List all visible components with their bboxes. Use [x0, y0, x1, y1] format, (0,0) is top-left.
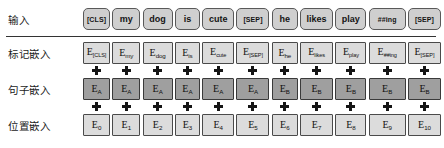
- embedding-symbol: E10: [418, 120, 431, 131]
- plus-slot: [112, 66, 140, 75]
- input-token[interactable]: he: [272, 8, 298, 30]
- segment-embedding-row: 句子嵌入 EAEAEAEAEAEAEBEBEBEBEB: [0, 78, 444, 100]
- input-token[interactable]: [CLS]: [83, 8, 110, 30]
- embedding-subscript: 5: [254, 123, 257, 130]
- embedding-subscript: likes: [314, 52, 325, 58]
- embedding-subscript: [SEP]: [249, 52, 263, 58]
- segment-embedding-cell[interactable]: EA: [112, 78, 140, 100]
- token-embedding-cell[interactable]: Eplay: [335, 42, 366, 64]
- plus-slot: [335, 102, 366, 111]
- plus-icon: [248, 66, 257, 75]
- position-embedding-cell[interactable]: E2: [143, 114, 173, 136]
- row-label-input: 输入: [8, 12, 80, 27]
- embedding-symbol: E3: [183, 120, 192, 131]
- plus-icon: [183, 102, 192, 111]
- segment-embedding-cell[interactable]: EA: [83, 78, 110, 100]
- embedding-symbol: EA: [121, 84, 131, 95]
- embedding-subscript: dog: [156, 51, 166, 58]
- token-embedding-cell[interactable]: E[SEP]: [236, 42, 269, 64]
- embedding-subscript: A: [98, 87, 102, 94]
- embedding-symbol: E9: [382, 120, 391, 131]
- position-embedding-cell[interactable]: E1: [112, 114, 140, 136]
- input-row: 输入 [CLS]mydogiscute[SEP]helikesplay##ing…: [0, 8, 444, 30]
- embedding-subscript: B: [388, 87, 392, 94]
- segment-embedding-cell[interactable]: EA: [202, 78, 234, 100]
- token-embedding-cell[interactable]: Eis: [175, 42, 200, 64]
- position-embedding-list: E0E1E2E3E4E5E6E7E8E9E10: [83, 114, 441, 136]
- embedding-symbol: E0: [92, 120, 101, 131]
- segment-embedding-cell[interactable]: EA: [236, 78, 269, 100]
- embedding-subscript: B: [318, 87, 322, 94]
- position-embedding-cell[interactable]: E8: [335, 114, 366, 136]
- position-embedding-cell[interactable]: E5: [236, 114, 269, 136]
- plus-icon: [346, 66, 355, 75]
- embedding-symbol: E[CLS]: [87, 47, 107, 58]
- embedding-symbol: E##ing: [378, 47, 397, 58]
- plus-slot: [236, 66, 269, 75]
- plus-slot: [236, 102, 269, 111]
- input-token[interactable]: [SEP]: [408, 8, 441, 30]
- segment-embedding-cell[interactable]: EB: [300, 78, 333, 100]
- token-embedding-cell[interactable]: Ehe: [272, 42, 298, 64]
- embedding-subscript: 7: [318, 123, 321, 130]
- plus-slot: [175, 102, 200, 111]
- plus-slot: [408, 102, 441, 111]
- plus-slot: [202, 102, 234, 111]
- position-embedding-cell[interactable]: E0: [83, 114, 110, 136]
- input-token[interactable]: likes: [300, 8, 333, 30]
- input-token[interactable]: dog: [143, 8, 173, 30]
- input-token[interactable]: [SEP]: [236, 8, 269, 30]
- segment-embedding-cell[interactable]: EB: [408, 78, 441, 100]
- token-embedding-cell[interactable]: Edog: [143, 42, 173, 64]
- plus-slot: [369, 66, 406, 75]
- embedding-symbol: EB: [346, 84, 356, 95]
- embedding-symbol: E2: [153, 120, 162, 131]
- plus-icon: [92, 102, 101, 111]
- position-embedding-cell[interactable]: E9: [369, 114, 406, 136]
- plus-slot: [408, 66, 441, 75]
- embedding-subscript: 6: [286, 123, 289, 130]
- token-embedding-cell[interactable]: E##ing: [369, 42, 406, 64]
- embedding-subscript: 1: [128, 123, 131, 130]
- input-separator-line: [6, 36, 436, 37]
- token-embedding-row: 标记嵌入 E[CLS]EmyEdogEisEcuteE[SEP]EheElike…: [0, 42, 444, 64]
- embedding-symbol: Ecute: [210, 47, 226, 58]
- position-embedding-cell[interactable]: E10: [408, 114, 441, 136]
- embedding-subscript: [CLS]: [93, 52, 107, 58]
- position-embedding-row: 位置嵌入 E0E1E2E3E4E5E6E7E8E9E10: [0, 114, 444, 136]
- embedding-subscript: cute: [216, 52, 226, 58]
- position-embedding-cell[interactable]: E4: [202, 114, 234, 136]
- embedding-symbol: E1: [122, 120, 131, 131]
- position-embedding-cell[interactable]: E3: [175, 114, 200, 136]
- segment-embedding-cell[interactable]: EB: [272, 78, 298, 100]
- segment-embedding-cell[interactable]: EB: [369, 78, 406, 100]
- plus-icon: [122, 102, 131, 111]
- segment-embedding-cell[interactable]: EA: [143, 78, 173, 100]
- row-label-segment-embeddings: 句子嵌入: [8, 82, 80, 97]
- segment-embedding-cell[interactable]: EA: [175, 78, 200, 100]
- embedding-subscript: he: [284, 51, 291, 58]
- plus-slot: [272, 66, 298, 75]
- input-token[interactable]: ##ing: [369, 8, 406, 30]
- embedding-symbol: Edog: [150, 48, 166, 59]
- token-embedding-cell[interactable]: Ecute: [202, 42, 234, 64]
- position-embedding-cell[interactable]: E7: [300, 114, 333, 136]
- input-token[interactable]: is: [175, 8, 200, 30]
- embedding-symbol: EA: [91, 84, 101, 95]
- embedding-symbol: E6: [280, 120, 289, 131]
- plus-slot: [143, 102, 173, 111]
- input-token[interactable]: my: [112, 8, 140, 30]
- embedding-subscript: is: [188, 51, 192, 58]
- input-token[interactable]: cute: [202, 8, 234, 30]
- input-token[interactable]: play: [335, 8, 366, 30]
- token-embedding-cell[interactable]: Emy: [112, 42, 140, 64]
- token-embedding-cell[interactable]: E[SEP]: [408, 42, 441, 64]
- plus-icon: [383, 102, 392, 111]
- row-label-token-embeddings: 标记嵌入: [8, 46, 80, 61]
- plus-slot: [112, 102, 140, 111]
- token-embedding-cell[interactable]: Elikes: [300, 42, 333, 64]
- segment-embedding-cell[interactable]: EB: [335, 78, 366, 100]
- token-embedding-cell[interactable]: E[CLS]: [83, 42, 110, 64]
- position-embedding-cell[interactable]: E6: [272, 114, 298, 136]
- embedding-symbol: Eis: [182, 48, 192, 59]
